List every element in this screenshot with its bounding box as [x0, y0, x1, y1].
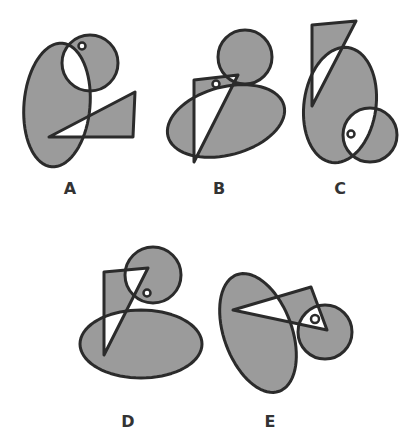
small-dot [311, 315, 319, 323]
small-dot [79, 43, 86, 50]
figure-d: D [80, 247, 202, 431]
small-dot [144, 290, 151, 297]
figure-e: E [220, 274, 352, 431]
small-dot [348, 131, 355, 138]
xor-fill-region [220, 274, 352, 393]
figure-c: C [303, 21, 397, 198]
option-label[interactable]: D [121, 412, 134, 431]
option-label[interactable]: C [334, 179, 346, 198]
small-dot [213, 81, 220, 88]
figure-b: B [167, 30, 284, 198]
xor-fill-region [303, 21, 397, 163]
option-label[interactable]: E [265, 412, 276, 431]
xor-fill-region [80, 247, 202, 378]
figure-a: A [24, 35, 135, 198]
figures-group: ABCDE [24, 21, 397, 431]
option-label[interactable]: A [64, 179, 77, 198]
puzzle-figure-canvas: ABCDE [0, 0, 417, 432]
option-label[interactable]: B [213, 179, 225, 198]
